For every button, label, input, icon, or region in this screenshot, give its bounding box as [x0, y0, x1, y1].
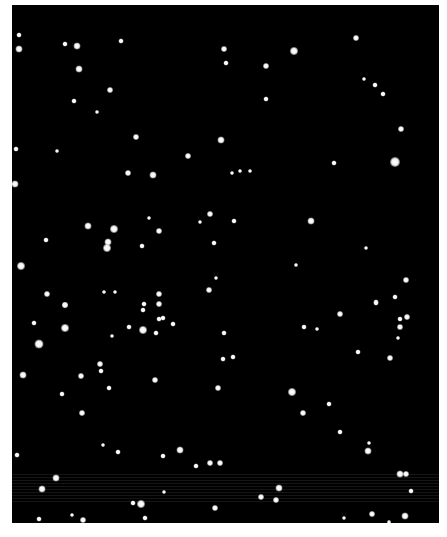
star [221, 357, 226, 362]
star [409, 489, 414, 494]
star [17, 33, 22, 38]
star [103, 244, 111, 252]
star [162, 490, 166, 494]
star [308, 218, 315, 225]
star [78, 373, 84, 379]
star [74, 43, 81, 50]
star [119, 39, 124, 44]
star [403, 277, 409, 283]
star [207, 460, 213, 466]
star [315, 327, 319, 331]
star [364, 246, 368, 250]
star [369, 511, 375, 517]
star [17, 262, 25, 270]
star [397, 324, 403, 330]
star [35, 340, 44, 349]
star [342, 516, 346, 520]
star [156, 291, 162, 297]
star [37, 517, 42, 522]
star [147, 216, 151, 220]
star [215, 385, 221, 391]
star [177, 447, 184, 454]
star [97, 361, 103, 367]
star [143, 516, 148, 521]
star [258, 494, 264, 500]
star [398, 126, 404, 132]
star [156, 301, 162, 307]
star [102, 290, 106, 294]
star [273, 497, 279, 503]
star [185, 153, 191, 159]
star [332, 161, 337, 166]
star [300, 410, 306, 416]
star [338, 430, 343, 435]
star [374, 301, 379, 306]
star [387, 355, 393, 361]
star [387, 520, 391, 523]
star [214, 276, 218, 280]
star [99, 369, 104, 374]
noise-band [12, 472, 439, 502]
star [60, 392, 65, 397]
star [110, 334, 114, 338]
star [238, 169, 242, 173]
star [171, 322, 176, 327]
star [14, 147, 19, 152]
star [393, 295, 398, 300]
star [290, 47, 298, 55]
star [101, 443, 105, 447]
star [141, 308, 146, 313]
star [356, 350, 361, 355]
star [12, 181, 19, 188]
star [362, 77, 366, 81]
star [76, 66, 83, 73]
star [85, 223, 92, 230]
star [156, 228, 162, 234]
star [264, 97, 269, 102]
star [222, 331, 227, 336]
star [110, 225, 118, 233]
star [44, 291, 50, 297]
star [263, 63, 269, 69]
star [224, 61, 229, 66]
star [150, 172, 157, 179]
star [218, 137, 225, 144]
star [327, 402, 332, 407]
star [55, 149, 59, 153]
star [95, 110, 99, 114]
star [139, 326, 147, 334]
star [365, 448, 372, 455]
star [302, 325, 307, 330]
star [70, 513, 74, 517]
star [396, 336, 400, 340]
star [61, 324, 69, 332]
star [53, 475, 60, 482]
star [161, 316, 166, 321]
star [212, 241, 217, 246]
star [140, 244, 145, 249]
star [207, 211, 213, 217]
star [232, 219, 237, 224]
star [142, 302, 147, 307]
star [125, 170, 131, 176]
star [137, 500, 145, 508]
star [381, 92, 386, 97]
star [398, 317, 403, 322]
star [154, 331, 159, 336]
star [294, 263, 298, 267]
star-field-image [12, 5, 439, 523]
star [131, 501, 136, 506]
star [161, 454, 166, 459]
star [403, 471, 409, 477]
star [198, 220, 202, 224]
star [230, 171, 234, 175]
star [133, 134, 139, 140]
star [373, 83, 378, 88]
star [79, 410, 85, 416]
star [231, 355, 236, 360]
star [20, 372, 27, 379]
star [127, 325, 132, 330]
star [32, 321, 37, 326]
star [212, 505, 218, 511]
star [367, 441, 371, 445]
